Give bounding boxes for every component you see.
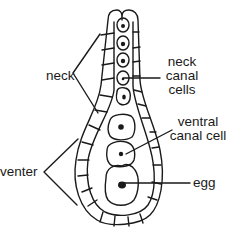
label-egg: egg: [193, 176, 216, 190]
label-neck-canal-cells-2: canal: [160, 69, 204, 83]
outer-wall: [75, 10, 162, 225]
archegonium-diagram: neck neck canal cells ventral canal cell…: [0, 0, 230, 236]
label-ventral-canal-cell-2: canal cell: [166, 129, 230, 143]
label-neck: neck: [46, 69, 75, 83]
label-neck-canal-cells-3: cells: [160, 83, 204, 97]
label-neck-canal-cells-1: neck: [160, 55, 204, 69]
label-venter: venter: [0, 165, 38, 179]
label-ventral-canal-cell-1: ventral: [166, 115, 230, 129]
